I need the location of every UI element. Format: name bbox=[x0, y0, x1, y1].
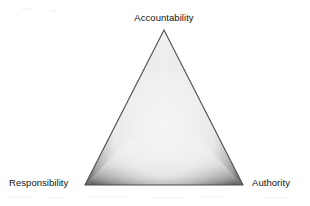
vertex-label-responsibility: Responsibility bbox=[9, 177, 68, 189]
triangle-diagram-svg bbox=[0, 0, 310, 206]
triangle-core-highlight bbox=[85, 30, 243, 185]
vertex-label-accountability-text: Accountability bbox=[134, 12, 193, 23]
triangle-shape bbox=[85, 30, 243, 185]
vertex-label-accountability: Accountability bbox=[0, 12, 310, 24]
vertex-label-authority: Authority bbox=[252, 177, 290, 189]
diagram-canvas: Accountability Responsibility Authority bbox=[0, 0, 310, 206]
